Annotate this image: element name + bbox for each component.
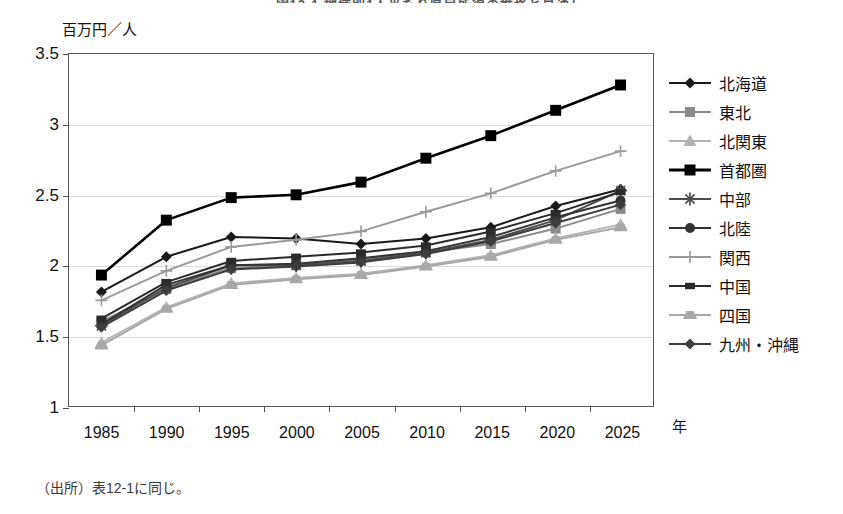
data-point-marker (160, 265, 172, 277)
x-axis-tick-label: 2020 (540, 424, 576, 442)
data-point-marker (550, 165, 562, 177)
data-point-marker (96, 270, 107, 281)
data-point-marker (356, 239, 367, 250)
data-point-marker (290, 234, 302, 246)
data-point-marker (550, 105, 561, 116)
data-point-marker (551, 210, 561, 216)
legend-item-7[interactable]: 関西 (668, 242, 799, 271)
data-point-marker (421, 242, 431, 248)
data-point-marker (420, 206, 432, 218)
legend-marker-filled-square-icon (668, 162, 712, 178)
data-point-marker (291, 189, 302, 200)
legend-item-8[interactable]: 中国 (668, 271, 799, 300)
data-point-marker (420, 233, 431, 244)
data-point-marker (615, 80, 626, 91)
data-point-marker (96, 316, 106, 322)
data-point-marker (356, 177, 367, 188)
x-axis-tick (329, 406, 330, 412)
legend-marker-plus-icon (668, 249, 712, 265)
x-axis-tick-label: 1985 (84, 424, 120, 442)
legend-item-3[interactable]: 北関東 (668, 126, 799, 155)
legend-item-1[interactable]: 北海道 (668, 68, 799, 97)
x-axis-tick-label: 2025 (605, 424, 641, 442)
legend-marker-circle-icon (668, 220, 712, 236)
x-axis-tick (395, 406, 396, 412)
data-point-marker (226, 192, 237, 203)
source-footnote: （出所）表12-1に同じ。 (36, 477, 190, 497)
x-axis-tick-label: 2005 (344, 424, 380, 442)
x-axis-tick (525, 406, 526, 412)
legend-item-6[interactable]: 北陸 (668, 213, 799, 242)
data-point-marker (225, 241, 237, 253)
legend-label: 北陸 (719, 216, 751, 240)
data-point-marker (550, 201, 561, 212)
legend-item-2[interactable]: 東北 (668, 97, 799, 126)
x-axis-tick (199, 406, 200, 412)
data-point-marker (161, 279, 171, 285)
data-point-marker (289, 275, 303, 283)
chart-title: 図12-1 地域別1人当たり県民所得の推移と見通し (150, 0, 710, 3)
legend-marker-diamond-icon (668, 336, 712, 352)
x-axis-tick-label: 2015 (474, 424, 510, 442)
data-point-marker (355, 225, 367, 237)
legend-item-5[interactable]: 中部 (668, 184, 799, 213)
data-point-marker (291, 254, 301, 260)
legend-marker-diamond-icon (668, 75, 712, 91)
chart-figure: 図12-1 地域別1人当たり県民所得の推移と見通し 百万円／人 3.532.52… (0, 0, 843, 514)
y-axis-tick (63, 408, 69, 409)
legend-marker-star-icon (668, 191, 712, 207)
legend-label: 東北 (719, 100, 751, 124)
data-point-marker (420, 153, 431, 164)
data-point-marker (161, 251, 172, 262)
legend-label: 中部 (719, 187, 751, 211)
series-lines (69, 54, 653, 406)
data-point-marker (485, 187, 497, 199)
legend-label: 四国 (719, 303, 751, 327)
legend-label: 北海道 (719, 71, 767, 95)
y-axis-tick-label: 1.5 (35, 327, 59, 347)
x-axis-tick (264, 406, 265, 412)
legend-label: 首都圏 (719, 158, 767, 182)
data-point-marker (161, 215, 172, 226)
legend-label: 中国 (719, 274, 751, 298)
data-point-marker (616, 189, 626, 195)
legend-item-9[interactable]: 四国 (668, 300, 799, 329)
y-axis-tick-label: 3.5 (35, 44, 59, 64)
data-point-marker (486, 228, 496, 234)
legend-marker-square-icon (668, 104, 712, 120)
data-point-marker (614, 223, 628, 231)
legend-label: 関西 (719, 245, 751, 269)
chart-legend: 北海道東北北関東首都圏中部北陸関西中国四国九州・沖縄 (668, 68, 799, 358)
legend-marker-small-square-icon (668, 278, 712, 294)
legend-marker-triangle-icon (668, 133, 712, 149)
data-point-marker (95, 294, 107, 306)
y-axis-tick-label: 3 (50, 115, 59, 135)
y-axis-unit-label: 百万円／人 (62, 18, 137, 39)
x-axis-tick-label: 2010 (409, 424, 445, 442)
x-axis-tick-label: 1990 (149, 424, 185, 442)
legend-item-10[interactable]: 九州・沖縄 (668, 329, 799, 358)
plot-area: 3.532.521.51 198519901995200020052010201… (68, 53, 654, 407)
legend-item-4[interactable]: 首都圏 (668, 155, 799, 184)
x-axis-tick (134, 406, 135, 412)
y-axis-tick-label: 1 (50, 398, 59, 418)
x-axis-tick (590, 406, 591, 412)
data-point-marker (356, 249, 366, 255)
x-axis-tick-label: 2000 (279, 424, 315, 442)
y-axis-tick-label: 2.5 (35, 186, 59, 206)
x-axis-tick (460, 406, 461, 412)
legend-label: 九州・沖縄 (719, 332, 799, 356)
legend-label: 北関東 (719, 129, 767, 153)
data-point-marker (485, 130, 496, 141)
y-axis-tick-label: 2 (50, 256, 59, 276)
data-point-marker (226, 232, 237, 243)
x-axis-unit-label: 年 (672, 415, 687, 436)
legend-marker-bar-icon (668, 307, 712, 323)
data-point-marker (615, 145, 627, 157)
data-point-marker (226, 258, 236, 264)
x-axis-tick-label: 1995 (214, 424, 250, 442)
